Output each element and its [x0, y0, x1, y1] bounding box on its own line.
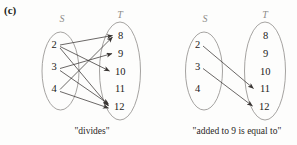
panel-divides-arrow-3-to-9: [60, 54, 112, 69]
panel-added-to-9-domain-oval: [186, 32, 223, 110]
panel-divides-domain-label: S: [60, 13, 65, 24]
panel-divides-arrow-3-to-12: [60, 71, 109, 105]
panel-divides-arrow-4-to-8: [60, 37, 113, 90]
panel-added-to-9-codomain-element-12: 12: [259, 101, 270, 112]
panel-added-to-9-domain-element-3: 3: [195, 61, 200, 72]
panel-divides-domain-element-3: 3: [51, 61, 56, 72]
panel-added-to-9-domain-element-4: 4: [195, 83, 201, 94]
panel-added-to-9-codomain-element-9: 9: [263, 48, 268, 59]
diagram-canvas: S T 2 3 4 8 9 10 11 12 "divides" S: [0, 0, 297, 145]
panel-divides-codomain-element-10: 10: [115, 66, 126, 77]
panel-divides-caption: "divides": [74, 126, 109, 136]
panel-added-to-9-codomain-element-11: 11: [260, 83, 270, 94]
panel-added-to-9: S T 2 3 4 8 9 10 11 12 "added to 9 is eq…: [186, 9, 286, 136]
panel-added-to-9-codomain-label: T: [262, 9, 269, 20]
panel-divides-codomain-element-8: 8: [118, 30, 123, 41]
panel-added-to-9-caption: "added to 9 is equal to": [193, 126, 282, 136]
panel-added-to-9-domain-label: S: [203, 13, 208, 24]
panel-divides-arrow-4-to-12: [60, 92, 109, 109]
panel-divides-domain-element-2: 2: [51, 39, 56, 50]
panel-divides-arrow-2-to-10: [60, 47, 110, 72]
panel-divides-domain-element-4: 4: [51, 83, 57, 94]
panel-divides-arrow-2-to-8: [60, 36, 113, 46]
panel-added-to-9-domain-element-2: 2: [195, 39, 200, 50]
relation-arrow-diagram-figure: (c) S T 2 3 4 8 9 10 11 12: [0, 0, 297, 145]
panel-divides-codomain-element-11: 11: [115, 83, 125, 94]
panel-added-to-9-codomain-element-10: 10: [260, 66, 271, 77]
panel-divides-codomain-label: T: [117, 9, 124, 20]
panel-added-to-9-codomain-element-8: 8: [263, 30, 268, 41]
panel-divides-codomain-element-9: 9: [118, 48, 123, 59]
panel-divides-codomain-element-12: 12: [114, 101, 125, 112]
panel-added-to-9-arrow-3-to-12: [203, 69, 253, 107]
panel-divides: S T 2 3 4 8 9 10 11 12 "divides": [42, 9, 141, 136]
